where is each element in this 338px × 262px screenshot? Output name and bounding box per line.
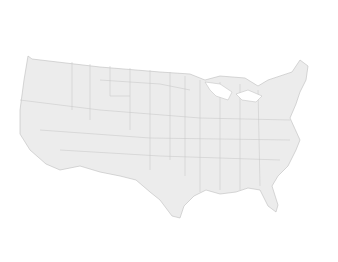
us-map (0, 0, 338, 262)
us-landmass (20, 56, 308, 218)
